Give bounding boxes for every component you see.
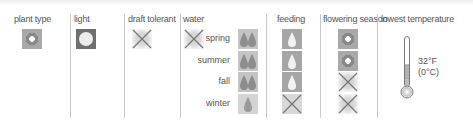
header-water: water [183, 14, 204, 24]
x-mark-icon [338, 94, 358, 114]
x-mark-icon [132, 29, 152, 49]
column-divider [180, 14, 181, 118]
header-light: light [74, 14, 90, 24]
temperature-fahrenheit: 32°F [418, 56, 437, 67]
season-label-summer: summer [190, 55, 230, 65]
header-draft-tolerant: draft tolerant [128, 14, 176, 24]
two-drops-icon [238, 51, 258, 71]
column-divider [124, 14, 125, 118]
temperature-celsius: (0°C) [418, 67, 439, 78]
two-drops-icon [238, 29, 258, 49]
flower-icon [338, 29, 358, 49]
column-divider [377, 14, 378, 118]
top-band [0, 0, 473, 6]
feeding-drop-icon [282, 51, 302, 71]
column-divider [266, 14, 267, 118]
full-sun-icon [76, 29, 96, 49]
header-plant-type: plant type [14, 14, 51, 24]
x-mark-icon [338, 72, 358, 92]
header-feeding: feeding [277, 14, 305, 24]
header-lowest-temperature: lowest temperature [381, 14, 454, 24]
feeding-drop-icon [282, 72, 302, 92]
feeding-drop-icon [282, 29, 302, 49]
column-divider [70, 14, 71, 118]
one-drop-icon [238, 94, 258, 114]
column-divider [320, 14, 321, 118]
season-label-spring: spring [190, 33, 230, 43]
season-label-winter: winter [190, 98, 230, 108]
flower-icon [22, 29, 42, 49]
season-label-fall: fall [190, 76, 230, 86]
flower-icon [338, 51, 358, 71]
two-drops-icon [238, 72, 258, 92]
thermometer-icon [400, 36, 414, 100]
x-mark-icon [282, 94, 302, 114]
